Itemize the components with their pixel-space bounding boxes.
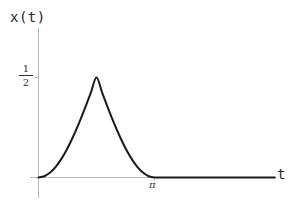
y-axis-label: x(t) <box>10 10 46 24</box>
fraction-numerator: 1 <box>19 63 33 76</box>
plot-figure: x(t) t 1 2 π <box>0 0 298 204</box>
data-curve-x-of-t <box>39 78 275 178</box>
y-axis-tick-label-half: 1 2 <box>19 63 33 88</box>
plot-canvas <box>0 0 298 204</box>
x-axis-label: t <box>277 167 285 181</box>
fraction-denominator: 2 <box>19 76 33 88</box>
x-axis-tick-label-pi: π <box>149 180 156 190</box>
